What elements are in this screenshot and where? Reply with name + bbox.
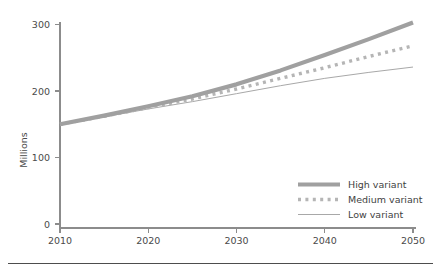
y-tick-label-0: 0: [44, 219, 50, 230]
y-axis-title: Millions: [18, 132, 29, 168]
legend-label-medium-variant: Medium variant: [348, 194, 423, 205]
y-tick-label-300: 300: [32, 19, 50, 30]
legend-label-high-variant: High variant: [348, 179, 407, 190]
x-tick-label-2030: 2030: [224, 235, 248, 246]
population-projection-figure: 300 200 100 0 Millions 2010 2020 2030 20…: [0, 0, 441, 278]
x-tick-label-2050: 2050: [401, 235, 425, 246]
y-tick-label-100: 100: [32, 152, 50, 163]
line-chart: 300 200 100 0 Millions 2010 2020 2030 20…: [0, 0, 441, 278]
x-tick-label-2010: 2010: [48, 235, 72, 246]
y-tick-label-200: 200: [32, 86, 50, 97]
legend-label-low-variant: Low variant: [348, 209, 404, 220]
x-tick-label-2020: 2020: [136, 235, 160, 246]
x-tick-label-2040: 2040: [313, 235, 337, 246]
